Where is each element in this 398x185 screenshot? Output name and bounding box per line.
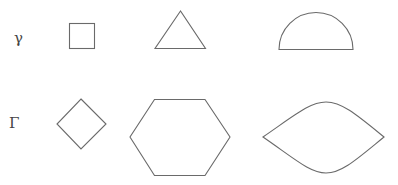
lens-shape <box>263 102 384 173</box>
square-shape <box>70 24 95 49</box>
diamond-shape <box>57 99 106 149</box>
triangle-shape <box>155 11 206 49</box>
shapes-canvas <box>0 0 398 185</box>
semicircle-shape <box>279 12 353 49</box>
hexagon-shape <box>130 100 230 176</box>
